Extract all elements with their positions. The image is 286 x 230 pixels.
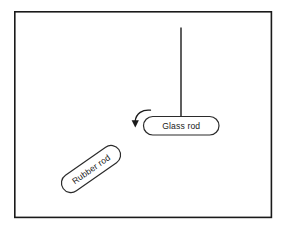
physics-diagram-figure: Glass rod Rubber rod — [0, 0, 286, 230]
diagram-border — [15, 12, 272, 218]
glass-rod-label: Glass rod — [162, 121, 200, 131]
diagram-canvas: Glass rod Rubber rod — [0, 0, 286, 230]
